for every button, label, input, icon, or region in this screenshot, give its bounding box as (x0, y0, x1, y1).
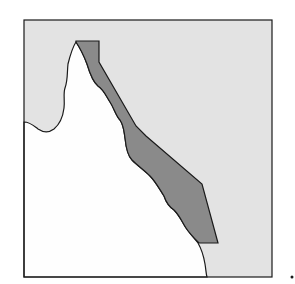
marker-dot (291, 276, 294, 279)
reef-map (0, 0, 295, 284)
